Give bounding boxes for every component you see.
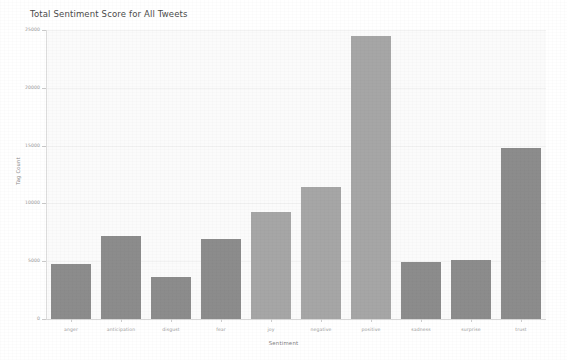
y-tick-mark [42, 261, 46, 262]
bar-anticipation[interactable] [101, 236, 141, 319]
x-tick-mark [71, 319, 72, 322]
y-tick-label: 0 [14, 316, 40, 321]
y-tick-mark [42, 203, 46, 204]
y-tick-label: 5000 [14, 258, 40, 263]
x-tick-label-sadness: sadness [411, 327, 430, 332]
chart-figure: Total Sentiment Score for All Tweets 050… [0, 0, 567, 360]
x-tick-mark [421, 319, 422, 322]
bar-fear[interactable] [201, 239, 241, 319]
x-tick-mark [121, 319, 122, 322]
x-tick-label-anticipation: anticipation [107, 327, 135, 332]
bar-trust[interactable] [501, 148, 541, 319]
bar-surprise[interactable] [451, 260, 491, 319]
y-tick-mark [42, 88, 46, 89]
y-axis-line [46, 30, 47, 320]
x-tick-mark [371, 319, 372, 322]
bar-sadness[interactable] [401, 262, 441, 319]
bar-negative[interactable] [301, 187, 341, 319]
x-tick-label-fear: fear [216, 327, 226, 332]
x-tick-mark [521, 319, 522, 322]
x-tick-mark [471, 319, 472, 322]
x-tick-label-surprise: surprise [461, 327, 480, 332]
x-tick-label-positive: positive [362, 327, 381, 332]
y-tick-label: 20000 [14, 85, 40, 90]
x-tick-mark [221, 319, 222, 322]
chart-title: Total Sentiment Score for All Tweets [30, 9, 188, 19]
x-tick-label-joy: joy [267, 327, 274, 332]
y-tick-label: 25000 [14, 27, 40, 32]
bar-positive[interactable] [351, 36, 391, 319]
gridline [46, 203, 546, 204]
x-axis-label: Sentiment [0, 340, 567, 346]
x-tick-label-anger: anger [64, 327, 78, 332]
x-tick-mark [321, 319, 322, 322]
gridline [46, 30, 546, 31]
bar-joy[interactable] [251, 212, 291, 320]
y-tick-mark [42, 319, 46, 320]
x-tick-mark [171, 319, 172, 322]
bar-anger[interactable] [51, 264, 91, 319]
x-tick-label-negative: negative [311, 327, 332, 332]
gridline [46, 146, 546, 147]
y-tick-mark [42, 30, 46, 31]
x-tick-label-trust: trust [515, 327, 526, 332]
y-tick-mark [42, 146, 46, 147]
bar-disgust[interactable] [151, 277, 191, 319]
gridline [46, 88, 546, 89]
x-tick-mark [271, 319, 272, 322]
x-tick-label-disgust: disgust [162, 327, 179, 332]
y-tick-label: 10000 [14, 200, 40, 205]
y-axis-label: Tag Count [15, 141, 21, 201]
plot-area [46, 30, 546, 319]
